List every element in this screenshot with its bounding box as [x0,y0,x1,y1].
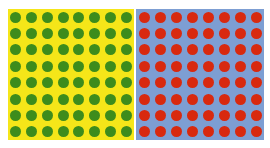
green-dot [58,12,69,23]
red-dot [155,77,166,88]
green-dot [73,126,84,137]
red-dot [155,126,166,137]
red-dot [187,94,198,105]
red-dot [203,61,214,72]
green-dot [58,110,69,121]
green-dot [105,77,116,88]
green-dot [10,94,21,105]
red-dot [139,61,150,72]
red-dot [235,77,246,88]
green-dot [58,28,69,39]
red-dot [139,44,150,55]
red-dot [187,44,198,55]
green-dot [73,61,84,72]
green-dot [58,61,69,72]
red-dot [235,110,246,121]
green-dot [73,44,84,55]
red-dot [139,110,150,121]
green-dot [26,61,37,72]
green-dot [89,61,100,72]
red-dot [155,44,166,55]
red-dot [171,12,182,23]
green-dot [121,28,132,39]
red-dot [219,44,230,55]
red-dot [251,61,262,72]
left-panel [8,9,134,140]
green-dot [73,12,84,23]
green-dot [58,44,69,55]
red-dot [203,44,214,55]
green-dot [105,126,116,137]
green-dot [10,126,21,137]
red-dot [203,126,214,137]
red-dot [235,61,246,72]
green-dot [42,110,53,121]
green-dot [10,28,21,39]
green-dot [105,110,116,121]
red-dot [155,28,166,39]
red-dot [171,126,182,137]
green-dot [73,110,84,121]
green-dot [10,110,21,121]
red-dot [235,94,246,105]
green-dot [121,61,132,72]
red-dot [171,28,182,39]
red-dot [219,61,230,72]
red-dot [187,126,198,137]
green-dot [26,94,37,105]
green-dot [10,44,21,55]
red-dot [155,61,166,72]
red-dot [139,28,150,39]
green-dot [105,28,116,39]
red-dot [219,94,230,105]
green-dot [42,12,53,23]
green-dot [26,77,37,88]
right-panel [136,9,264,140]
red-dot [251,110,262,121]
red-dot [235,12,246,23]
right-dot-grid [136,9,264,140]
green-dot [73,77,84,88]
green-dot [105,44,116,55]
red-dot [187,61,198,72]
left-dot-grid [8,9,134,140]
red-dot [219,126,230,137]
red-dot [155,94,166,105]
red-dot [219,110,230,121]
red-dot [235,28,246,39]
red-dot [203,110,214,121]
red-dot [251,28,262,39]
green-dot [10,12,21,23]
red-dot [139,77,150,88]
red-dot [251,44,262,55]
green-dot [42,44,53,55]
red-dot [139,126,150,137]
red-dot [155,12,166,23]
red-dot [251,77,262,88]
red-dot [203,12,214,23]
green-dot [26,126,37,137]
green-dot [121,94,132,105]
green-dot [105,61,116,72]
green-dot [10,77,21,88]
red-dot [171,44,182,55]
red-dot [171,110,182,121]
red-dot [219,77,230,88]
red-dot [187,77,198,88]
green-dot [121,44,132,55]
red-dot [251,126,262,137]
green-dot [89,110,100,121]
green-dot [121,110,132,121]
red-dot [235,44,246,55]
red-dot [219,12,230,23]
green-dot [58,126,69,137]
green-dot [89,12,100,23]
red-dot [251,12,262,23]
green-dot [73,94,84,105]
green-dot [89,77,100,88]
green-dot [89,28,100,39]
red-dot [171,61,182,72]
green-dot [42,61,53,72]
red-dot [203,77,214,88]
red-dot [187,110,198,121]
